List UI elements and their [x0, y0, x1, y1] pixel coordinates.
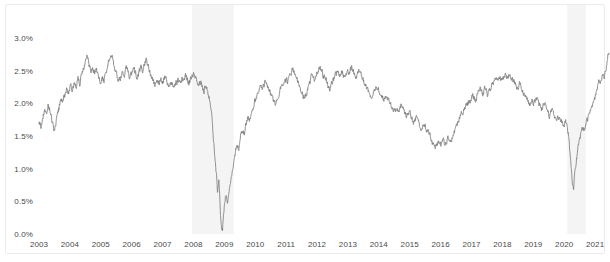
shaded-region-recession-2008 [192, 5, 234, 234]
y-tick-label: 0.5% [14, 197, 33, 206]
y-tick-label: 2.5% [14, 66, 33, 75]
x-tick-label: 2014 [370, 240, 388, 249]
x-tick-label: 2021 [586, 240, 604, 249]
x-tick-label: 2005 [92, 240, 110, 249]
x-tick-label: 2006 [123, 240, 141, 249]
y-tick-label: 2.0% [14, 99, 33, 108]
x-tick-label: 2013 [339, 240, 357, 249]
x-tick-label: 2016 [432, 240, 450, 249]
x-tick-label: 2011 [277, 240, 295, 249]
series-line-yield [39, 53, 609, 231]
screenshot-root: 0.0%0.5%1.0%1.5%2.0%2.5%3.0% 20032004200… [0, 0, 610, 262]
x-tick-label: 2007 [153, 240, 171, 249]
x-tick-label: 2019 [524, 240, 542, 249]
y-tick-label: 1.5% [14, 132, 33, 141]
shaded-region-recession-2020 [567, 5, 586, 234]
recession-shading-group [192, 5, 586, 234]
x-tick-label: 2020 [555, 240, 573, 249]
x-tick-label: 2018 [493, 240, 511, 249]
y-tick-label: 1.0% [14, 164, 33, 173]
y-tick-label: 0.0% [14, 230, 33, 239]
x-tick-label: 2009 [215, 240, 233, 249]
line-chart-svg [39, 38, 609, 234]
y-tick-label: 3.0% [14, 34, 33, 43]
plot-area: 0.0%0.5%1.0%1.5%2.0%2.5%3.0% 20032004200… [39, 38, 609, 234]
x-tick-label: 2003 [30, 240, 48, 249]
x-tick-label: 2017 [462, 240, 480, 249]
chart-frame: 0.0%0.5%1.0%1.5%2.0%2.5%3.0% 20032004200… [5, 4, 605, 254]
series-canvas [39, 38, 609, 234]
x-tick-label: 2004 [61, 240, 79, 249]
x-tick-label: 2010 [246, 240, 264, 249]
x-tick-label: 2015 [401, 240, 419, 249]
x-tick-label: 2008 [184, 240, 202, 249]
x-tick-label: 2012 [308, 240, 326, 249]
